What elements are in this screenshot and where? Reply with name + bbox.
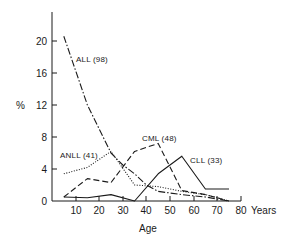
x-axis-tick-labels: 10 20 30 40 50 60 70 80	[70, 205, 247, 216]
x-tick-label: 20	[93, 205, 105, 216]
y-axis-ticks	[52, 41, 57, 169]
x-axis-unit-label: Years	[251, 205, 276, 216]
y-tick-label: 8	[41, 132, 47, 143]
y-axis-title: %	[16, 100, 25, 111]
x-axis-ticks	[76, 196, 241, 201]
y-tick-label: 4	[41, 164, 47, 175]
y-tick-label: 12	[36, 100, 48, 111]
x-tick-label: 10	[70, 205, 82, 216]
x-tick-label: 30	[117, 205, 129, 216]
x-tick-label: 80	[235, 205, 247, 216]
series-label-all: ALL (98)	[76, 55, 108, 64]
series-label-cml: CML (48)	[142, 134, 177, 143]
series-label-cll: CLL (33)	[190, 156, 223, 165]
y-tick-label: 20	[36, 36, 48, 47]
leukemia-age-distribution-chart: 20 16 12 8 4 0 % 10 20 30 40 50 60 70 80…	[0, 0, 285, 241]
x-tick-label: 50	[164, 205, 176, 216]
x-tick-label: 40	[140, 205, 152, 216]
series-label-anll: ANLL (41)	[60, 151, 98, 160]
y-axis-tick-labels: 20 16 12 8 4 0	[36, 36, 48, 207]
y-tick-label: 16	[36, 68, 48, 79]
x-axis-title: Age	[139, 223, 157, 234]
x-tick-label: 60	[188, 205, 200, 216]
y-tick-label: 0	[41, 196, 47, 207]
x-tick-label: 70	[211, 205, 223, 216]
